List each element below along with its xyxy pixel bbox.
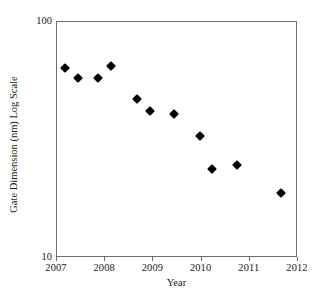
x-axis-tick-label-2007: 2007 [31,261,81,274]
x-axis-title: Year [56,277,297,288]
scatter-chart-figure: 200720082009201020112012 100 10 Year Gat… [0,0,320,305]
x-axis-tick-label-2011: 2011 [224,261,274,274]
plot-area [56,21,297,257]
y-axis-title: Gate Dimension (nm) Log Scale [8,47,19,243]
x-axis-tick-label-2012: 2012 [272,261,320,274]
x-axis-tick-label-2010: 2010 [176,261,226,274]
y-axis-title-wrapper: Gate Dimension (nm) Log Scale [0,0,24,305]
x-axis-tick-label-2008: 2008 [79,261,129,274]
x-axis-tick-label-2009: 2009 [127,261,177,274]
